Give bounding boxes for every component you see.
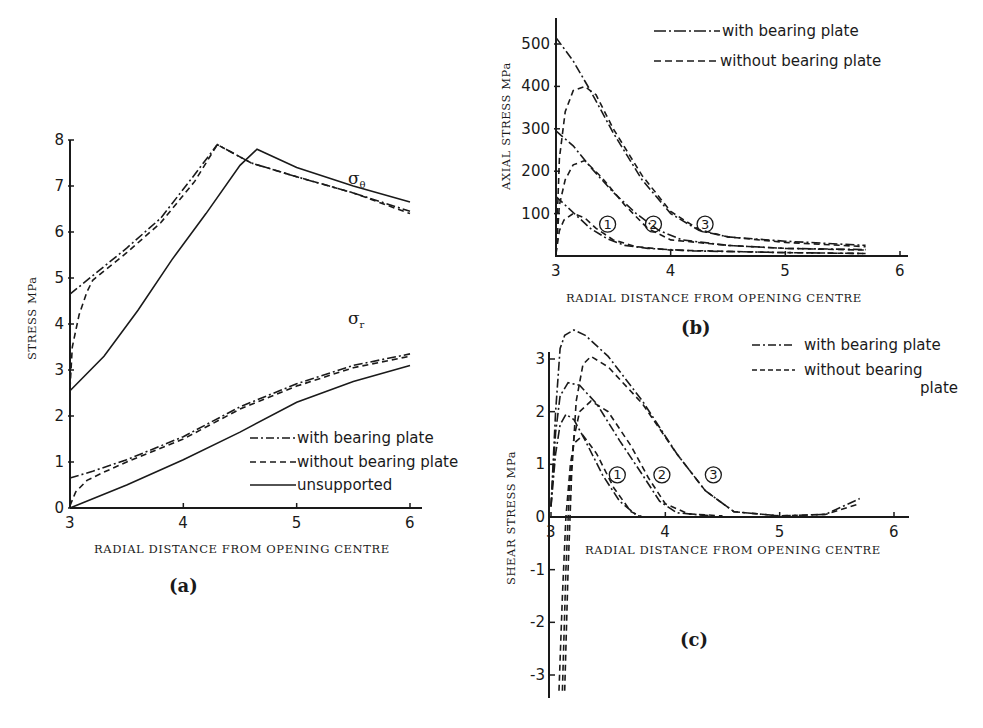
chart-c-curve-markers: 123 xyxy=(609,467,721,483)
chart-a-ticks: 3456012345678 xyxy=(54,131,414,532)
figure-canvas: 3456012345678 STRESS MPa RADIAL DISTANCE… xyxy=(0,0,983,728)
y-tick-label: 2 xyxy=(54,407,64,425)
y-tick-label: 200 xyxy=(521,162,550,180)
legend-unsupported: unsupported xyxy=(297,476,392,494)
curve-number: 3 xyxy=(701,217,709,232)
chart-b-legend: with bearing plate without bearing plate xyxy=(654,22,881,70)
x-tick-label: 3 xyxy=(65,514,75,532)
x-tick-label: 5 xyxy=(292,514,302,532)
series-line xyxy=(551,414,643,517)
curve-number: 1 xyxy=(613,467,621,482)
chart-b-y-label: AXIAL STRESS MPa xyxy=(499,62,513,191)
y-tick-label: -1 xyxy=(530,561,545,579)
chart-b-x-label: RADIAL DISTANCE FROM OPENING CENTRE xyxy=(566,291,862,305)
curve-number: 1 xyxy=(603,217,611,232)
y-tick-label: 2 xyxy=(535,403,545,421)
chart-c-shear-stress: 3456-3-2-10123 SHEAR STRESS MPa RADIAL D… xyxy=(504,330,958,698)
chart-a-radial-tangential-stress: 3456012345678 STRESS MPa RADIAL DISTANCE… xyxy=(25,131,458,596)
legend-with-bearing-plate: with bearing plate xyxy=(804,336,941,354)
y-tick-label: 7 xyxy=(54,177,64,195)
chart-b-panel-label: (b) xyxy=(681,317,711,338)
x-tick-label: 4 xyxy=(666,262,676,280)
y-tick-label: -2 xyxy=(530,613,545,631)
series-line xyxy=(551,383,711,516)
legend-with-bearing-plate: with bearing plate xyxy=(722,22,859,40)
x-tick-label: 6 xyxy=(889,523,899,541)
curve-number: 2 xyxy=(649,217,657,232)
y-tick-label: 3 xyxy=(535,350,545,368)
y-tick-label: 400 xyxy=(521,77,550,95)
chart-b-curves xyxy=(556,38,866,254)
legend-without-bearing-plate: without bearing plate xyxy=(297,453,458,471)
y-tick-label: -3 xyxy=(530,666,545,684)
series-line xyxy=(559,435,643,690)
y-tick-label: 3 xyxy=(54,361,64,379)
x-tick-label: 6 xyxy=(895,262,905,280)
y-tick-label: 4 xyxy=(54,315,64,333)
chart-c-legend: with bearing plate without bearingplate xyxy=(752,336,958,397)
series-line xyxy=(565,356,860,690)
x-tick-label: 3 xyxy=(551,262,561,280)
legend-with-bearing-plate: with bearing plate xyxy=(297,429,434,447)
chart-b-curve-markers: 123 xyxy=(600,216,713,232)
y-tick-label: 300 xyxy=(521,120,550,138)
chart-a-sigma-theta-label: σθ xyxy=(348,168,366,190)
x-tick-label: 4 xyxy=(660,523,670,541)
chart-b-axial-stress: 3456100200300400500 AXIAL STRESS MPa RAD… xyxy=(499,18,908,338)
x-tick-label: 6 xyxy=(405,514,415,532)
y-tick-label: 1 xyxy=(535,455,545,473)
chart-a-x-label: RADIAL DISTANCE FROM OPENING CENTRE xyxy=(94,542,390,556)
chart-a-y-label: STRESS MPa xyxy=(25,276,39,360)
y-tick-label: 5 xyxy=(54,269,64,287)
chart-c-x-label: RADIAL DISTANCE FROM OPENING CENTRE xyxy=(585,543,881,557)
series-line xyxy=(551,330,860,516)
chart-a-panel-label: (a) xyxy=(169,575,198,596)
y-tick-label: 100 xyxy=(521,205,550,223)
curve-number: 2 xyxy=(658,467,666,482)
chart-a-legend: with bearing plate without bearing plate… xyxy=(250,429,458,494)
x-tick-label: 5 xyxy=(780,262,790,280)
x-tick-label: 5 xyxy=(775,523,785,541)
curve-number: 3 xyxy=(709,467,717,482)
x-tick-label: 4 xyxy=(178,514,188,532)
y-tick-label: 8 xyxy=(54,131,64,149)
legend-without-bearing-plate: without bearingplate xyxy=(804,361,958,397)
chart-c-panel-label: (c) xyxy=(680,629,708,650)
legend-without-bearing-plate: without bearing plate xyxy=(720,52,881,70)
x-tick-label: 3 xyxy=(546,523,556,541)
y-tick-label: 0 xyxy=(535,508,545,526)
chart-c-y-label: SHEAR STRESS MPa xyxy=(504,451,518,585)
y-tick-label: 1 xyxy=(54,453,64,471)
chart-a-sigma-r-label: σr xyxy=(348,308,365,330)
y-tick-label: 0 xyxy=(54,499,64,517)
y-tick-label: 500 xyxy=(521,35,550,53)
series-line xyxy=(556,161,866,254)
y-tick-label: 6 xyxy=(54,223,64,241)
